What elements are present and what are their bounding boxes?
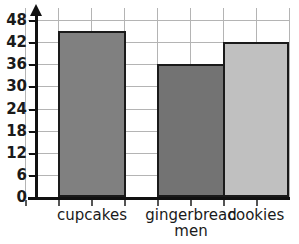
x-axis-line — [28, 197, 290, 200]
y-axis-tick — [29, 86, 37, 88]
y-axis-tick — [29, 20, 37, 22]
category-label-line2: men — [131, 223, 251, 239]
y-axis-tick-label: 30 — [1, 79, 27, 94]
y-axis-tick-label: 42 — [1, 35, 27, 50]
y-axis-tick — [29, 153, 37, 155]
gridline-horizontal — [28, 20, 290, 21]
y-axis-tick — [29, 197, 37, 199]
bar — [157, 64, 225, 197]
y-axis-tick — [29, 175, 37, 177]
y-axis-tick-label: 36 — [1, 57, 27, 72]
bar-chart: 0612182430364248 cupcakesgingerbreadmenc… — [0, 0, 299, 244]
up-arrow-icon — [30, 4, 42, 16]
y-axis-tick-label: 48 — [1, 13, 27, 28]
y-axis-tick-label: 24 — [1, 102, 27, 117]
y-axis-tick-label: 6 — [1, 168, 27, 183]
y-axis-tick-label: 12 — [1, 146, 27, 161]
bar — [58, 31, 126, 197]
y-axis-tick — [29, 42, 37, 44]
y-axis-tick — [29, 64, 37, 66]
x-axis-tick — [25, 200, 27, 206]
y-axis-tick-label: 0 — [1, 190, 27, 205]
bar — [223, 42, 289, 197]
y-axis-tick-labels: 0612182430364248 — [0, 0, 27, 244]
y-axis-tick — [29, 109, 37, 111]
y-axis-tick-label: 18 — [1, 124, 27, 139]
category-label: cookies — [196, 207, 299, 223]
category-label-line1: cookies — [228, 206, 285, 224]
category-label-line1: cupcakes — [57, 206, 127, 224]
y-axis-tick — [29, 131, 37, 133]
gridline-vertical — [289, 8, 290, 197]
